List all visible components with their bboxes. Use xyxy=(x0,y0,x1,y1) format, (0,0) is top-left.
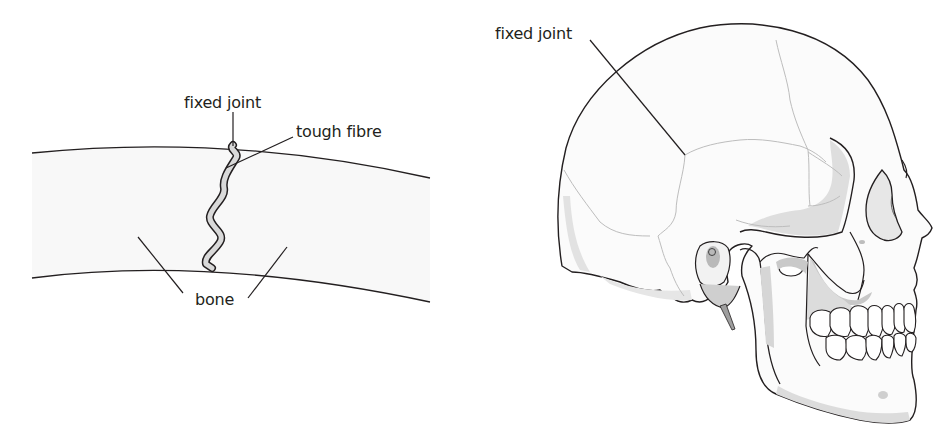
diagram-stage: fixed joint tough fibre bone fixed joint xyxy=(0,0,949,444)
label-fixed-joint-left: fixed joint xyxy=(184,95,261,111)
skull xyxy=(558,24,932,423)
label-fixed-joint-skull: fixed joint xyxy=(495,26,572,42)
teeth xyxy=(810,304,916,361)
label-bone: bone xyxy=(195,292,234,308)
diagram-canvas xyxy=(0,0,949,444)
label-tough-fibre: tough fibre xyxy=(296,124,382,140)
